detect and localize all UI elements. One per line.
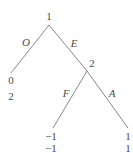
node-label-root: 1: [46, 10, 52, 22]
edge-O: [11, 25, 49, 73]
payoff-A-player1: 1: [125, 130, 131, 142]
node-label-2: 2: [89, 57, 95, 69]
edge-label-A: A: [108, 87, 116, 99]
payoff-F-player2: −1: [45, 142, 57, 153]
payoff-O-player2: 2: [8, 90, 14, 102]
edge-E: [49, 25, 87, 71]
payoff-O-player1: 0: [8, 74, 14, 86]
edge-label-F: F: [62, 87, 70, 99]
edge-F: [53, 71, 87, 128]
edge-label-E: E: [70, 37, 78, 49]
edge-A: [87, 71, 128, 128]
payoff-F-player1: −1: [45, 130, 57, 142]
game-tree-diagram: 1 2 O E F A 0 2 −1 −1 1 1: [0, 0, 133, 153]
payoff-A-player2: 1: [125, 142, 131, 153]
edge-label-O: O: [22, 36, 30, 48]
